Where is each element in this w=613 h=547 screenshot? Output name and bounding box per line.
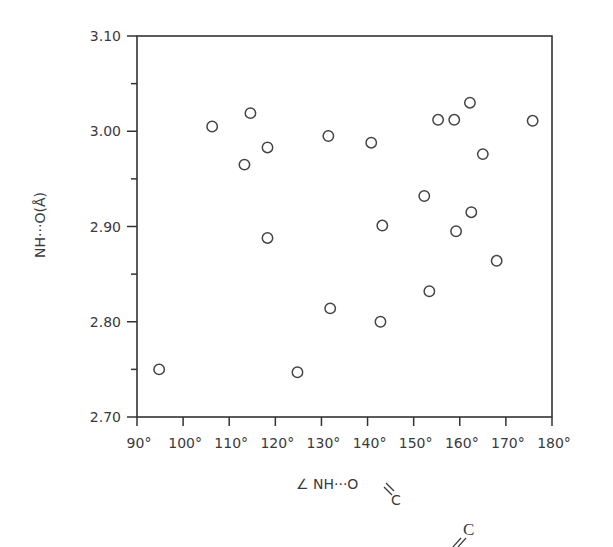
x-tick-label: 100° — [168, 435, 202, 451]
x-tick-label: 140° — [353, 435, 387, 451]
data-point — [424, 286, 434, 296]
data-point — [466, 207, 476, 217]
y-tick-label: 3.10 — [90, 28, 121, 44]
y-tick-label: 2.80 — [90, 314, 121, 330]
angle-symbol: ∠ — [296, 476, 309, 492]
x-tick-label: 120° — [260, 435, 294, 451]
cropped-structure-fragment: C — [453, 520, 474, 547]
data-point — [433, 115, 443, 125]
data-point — [451, 226, 461, 236]
data-point — [262, 142, 272, 152]
y-tick-label: 2.70 — [90, 409, 121, 425]
data-point — [375, 317, 385, 327]
y-axis-ticks: 2.702.802.903.003.10 — [90, 28, 137, 425]
y-axis-label: NH···O(Å) — [32, 192, 48, 258]
y-tick-label: 3.00 — [90, 123, 121, 139]
data-point — [239, 159, 249, 169]
data-point — [262, 233, 272, 243]
data-point — [419, 191, 429, 201]
x-tick-label: 160° — [445, 435, 479, 451]
data-point — [154, 364, 164, 374]
x-tick-label: 170° — [491, 435, 525, 451]
x-tick-label: 110° — [214, 435, 248, 451]
data-point — [323, 131, 333, 141]
data-point — [325, 303, 335, 313]
x-axis-ticks: 90°100°110°120°130°140°150°160°170°180° — [127, 417, 571, 451]
data-point — [245, 108, 255, 118]
y-tick-label: 2.90 — [90, 219, 121, 235]
plot-frame — [137, 36, 552, 417]
x-tick-label: 90° — [127, 435, 152, 451]
data-point — [449, 115, 459, 125]
data-point — [377, 220, 387, 230]
data-point — [207, 121, 217, 131]
data-point — [465, 97, 475, 107]
data-point — [491, 256, 501, 266]
data-point — [478, 149, 488, 159]
data-points — [154, 97, 538, 377]
scatter-chart: 90°100°110°120°130°140°150°160°170°180° … — [0, 0, 613, 547]
x-tick-label: 130° — [307, 435, 341, 451]
x-axis-label-main: NH···O — [313, 476, 358, 492]
plot-border — [137, 36, 552, 417]
x-tick-label: 150° — [399, 435, 433, 451]
data-point — [527, 116, 537, 126]
x-axis-label: ∠ NH···O C — [296, 476, 401, 508]
data-point — [366, 137, 376, 147]
x-tick-label: 180° — [537, 435, 571, 451]
x-axis-label-subscript: C — [391, 492, 401, 508]
carbon-label: C — [463, 520, 474, 539]
data-point — [292, 367, 302, 377]
